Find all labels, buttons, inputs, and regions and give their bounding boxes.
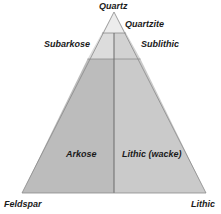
region-quartzite xyxy=(102,12,126,33)
region-sublithic xyxy=(114,33,141,59)
vertex-label-feldspar: Feldspar xyxy=(4,200,42,209)
region-label-sublithic: Sublithic xyxy=(141,40,179,49)
sandstone-classification-diagram: Quartz Quartzite Subarkose Sublithic Ark… xyxy=(0,0,221,214)
region-label-subarkose: Subarkose xyxy=(44,40,90,49)
region-label-lithic-wacke: Lithic (wacke) xyxy=(122,150,182,159)
region-label-arkose: Arkose xyxy=(66,150,97,159)
vertex-label-lithic: Lithic xyxy=(191,200,215,209)
region-label-quartzite: Quartzite xyxy=(125,20,164,29)
region-subarkose xyxy=(88,33,115,59)
region-arkose xyxy=(22,59,114,193)
region-lithic-wacke xyxy=(114,59,206,193)
ternary-triangle xyxy=(0,0,221,214)
vertex-label-quartz: Quartz xyxy=(99,2,128,11)
